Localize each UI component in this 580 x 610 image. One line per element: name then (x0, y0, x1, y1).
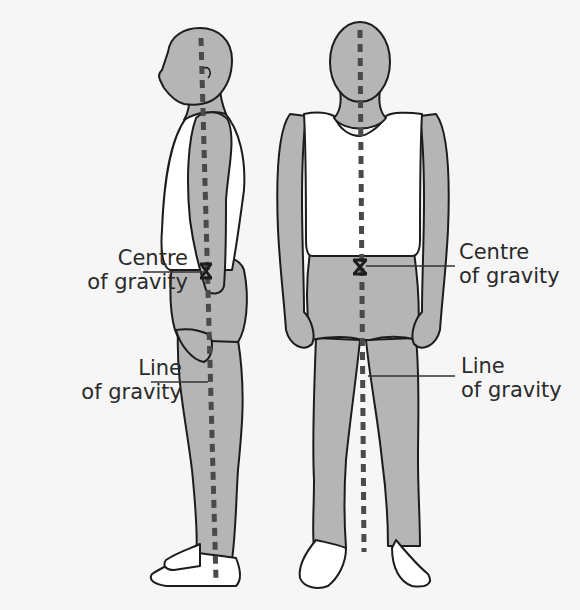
label-line-1: Centre (64, 246, 188, 270)
label-line-of-gravity-side: Line of gravity (64, 356, 182, 404)
side-view-figure (151, 28, 247, 586)
figures-illustration (0, 0, 580, 610)
label-line-2: of gravity (64, 270, 188, 294)
label-line-1: Line (461, 354, 562, 378)
posture-diagram: Centre of gravity Line of gravity Centre… (0, 0, 580, 610)
label-line-1: Line (64, 356, 182, 380)
label-line-2: of gravity (461, 378, 562, 402)
label-line-2: of gravity (64, 380, 182, 404)
label-line-1: Centre (459, 240, 560, 264)
label-centre-of-gravity-side: Centre of gravity (64, 246, 188, 294)
label-line-of-gravity-front: Line of gravity (461, 354, 562, 402)
label-centre-of-gravity-front: Centre of gravity (459, 240, 560, 288)
label-line-2: of gravity (459, 264, 560, 288)
